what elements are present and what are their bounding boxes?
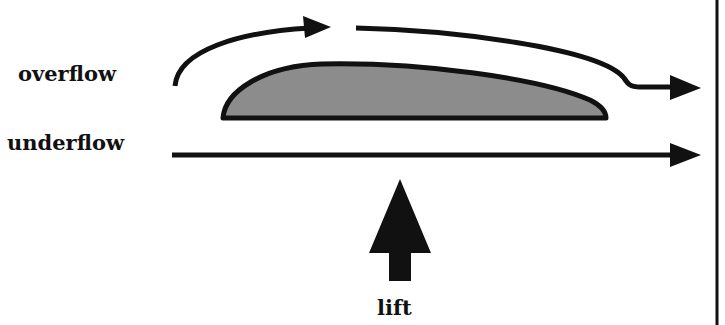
underflow-arrowhead xyxy=(670,143,701,167)
lift-arrow-icon xyxy=(369,179,431,281)
overflow-arrowhead-mid xyxy=(303,16,331,38)
airfoil-flow-diagram xyxy=(0,0,725,325)
overflow-label: overflow xyxy=(18,63,116,84)
lift-label: lift xyxy=(377,297,412,318)
airfoil-shape xyxy=(223,64,606,118)
underflow-label: underflow xyxy=(7,132,124,153)
overflow-arrowhead-end xyxy=(670,75,701,100)
